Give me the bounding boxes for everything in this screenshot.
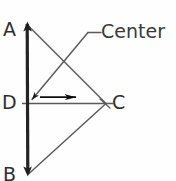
center-annotation-label: Center bbox=[101, 22, 165, 41]
vertex-label-c: C bbox=[112, 93, 125, 112]
segment-center-to-d bbox=[32, 33, 88, 100]
geometry-diagram: A B C D Center bbox=[0, 0, 176, 181]
vertex-label-b: B bbox=[3, 165, 16, 181]
vertex-label-d: D bbox=[2, 93, 17, 112]
segment-b-to-c bbox=[29, 104, 107, 175]
vertex-label-a: A bbox=[3, 20, 16, 39]
vertical-axis-a-b bbox=[27, 24, 28, 173]
